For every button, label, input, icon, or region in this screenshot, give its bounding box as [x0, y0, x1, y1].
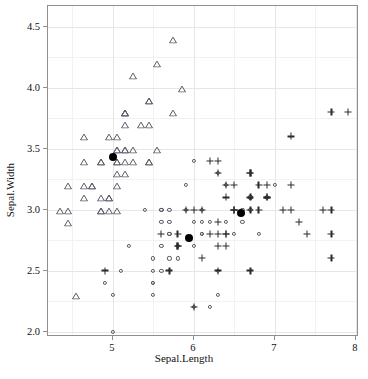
data-point-virginica	[287, 206, 294, 213]
data-point-versicolor	[167, 208, 171, 212]
data-point-setosa	[53, 207, 59, 212]
gridline-horizontal	[48, 332, 357, 333]
data-point-versicolor	[143, 208, 147, 212]
data-point-virginica	[223, 243, 230, 250]
data-point-setosa	[61, 207, 67, 212]
data-point-virginica	[255, 182, 262, 189]
data-point-setosa	[69, 292, 75, 297]
data-point-virginica	[320, 206, 327, 213]
gridline-vertical-minor	[234, 6, 235, 335]
data-point-virginica	[198, 206, 205, 213]
data-point-virginica	[247, 194, 254, 201]
data-point-setosa	[150, 61, 156, 66]
data-point-versicolor	[192, 220, 196, 224]
y-axis-tick	[43, 209, 47, 210]
data-point-virginica	[247, 206, 254, 213]
data-point-setosa	[61, 219, 67, 224]
data-point-virginica	[328, 206, 335, 213]
data-point-setosa	[110, 207, 116, 212]
centroid-marker	[237, 209, 245, 217]
data-point-versicolor	[192, 159, 196, 163]
data-point-versicolor	[111, 293, 115, 297]
data-point-virginica	[158, 230, 165, 237]
data-point-virginica	[287, 133, 294, 140]
data-point-virginica	[328, 230, 335, 237]
data-point-setosa	[126, 73, 132, 78]
data-point-virginica	[287, 182, 294, 189]
gridline-horizontal	[48, 271, 357, 272]
data-point-setosa	[77, 134, 83, 139]
data-point-virginica	[255, 206, 262, 213]
data-point-setosa	[102, 195, 108, 200]
data-point-virginica	[304, 230, 311, 237]
y-axis-tick	[43, 26, 47, 27]
data-point-versicolor	[216, 293, 220, 297]
data-point-versicolor	[119, 268, 123, 272]
data-point-versicolor	[184, 183, 188, 187]
data-point-setosa	[77, 183, 83, 188]
y-axis-tick	[43, 331, 47, 332]
data-point-virginica	[174, 230, 181, 237]
data-point-versicolor	[232, 232, 236, 236]
data-point-versicolor	[159, 268, 163, 272]
data-point-virginica	[328, 109, 335, 116]
data-point-virginica	[215, 157, 222, 164]
data-point-virginica	[182, 206, 189, 213]
gridline-vertical	[356, 6, 357, 335]
data-point-setosa	[110, 171, 116, 176]
data-point-setosa	[110, 183, 116, 188]
y-axis-tick-label: 3.0	[14, 203, 40, 214]
gridline-vertical-minor	[315, 6, 316, 335]
y-axis-tick-label: 3.5	[14, 142, 40, 153]
data-point-versicolor	[167, 256, 171, 260]
data-point-virginica	[296, 218, 303, 225]
gridline-horizontal	[48, 149, 357, 150]
data-point-setosa	[94, 158, 100, 163]
y-axis-tick-label: 2.5	[14, 264, 40, 275]
x-axis-tick	[193, 336, 194, 340]
data-point-virginica	[215, 243, 222, 250]
y-axis-tick	[43, 270, 47, 271]
data-point-virginica	[263, 182, 270, 189]
data-point-virginica	[206, 230, 213, 237]
gridline-horizontal-minor	[48, 301, 357, 302]
gridline-horizontal	[48, 27, 357, 28]
data-point-virginica	[215, 230, 222, 237]
data-point-virginica	[166, 267, 173, 274]
data-point-versicolor	[192, 244, 196, 248]
scatter-plot-figure: 56782.02.53.03.54.04.5 Sepal.Length Sepa…	[0, 0, 368, 379]
gridline-horizontal	[48, 88, 357, 89]
y-axis-tick	[43, 148, 47, 149]
data-point-setosa	[166, 110, 172, 115]
data-point-versicolor	[127, 244, 131, 248]
gridline-horizontal-minor	[48, 240, 357, 241]
data-point-versicolor	[175, 256, 179, 260]
data-point-virginica	[215, 267, 222, 274]
centroid-marker	[185, 234, 193, 242]
data-point-virginica	[247, 170, 254, 177]
data-point-virginica	[328, 255, 335, 262]
data-point-setosa	[61, 183, 67, 188]
data-point-versicolor	[159, 244, 163, 248]
data-point-virginica	[223, 230, 230, 237]
data-point-versicolor	[111, 329, 115, 333]
data-point-versicolor	[151, 293, 155, 297]
plot-panel	[47, 5, 358, 336]
data-point-setosa	[118, 122, 124, 127]
y-axis-label: Sepal.Width	[4, 150, 16, 230]
gridline-horizontal-minor	[48, 179, 357, 180]
data-point-virginica	[190, 304, 197, 311]
data-point-virginica	[101, 267, 108, 274]
data-point-virginica	[215, 170, 222, 177]
gridline-vertical	[275, 6, 276, 335]
data-point-versicolor	[167, 232, 171, 236]
data-point-virginica	[190, 206, 197, 213]
y-axis-tick-label: 4.5	[14, 20, 40, 31]
data-point-virginica	[174, 243, 181, 250]
x-axis-tick	[355, 336, 356, 340]
data-point-setosa	[175, 85, 181, 90]
data-point-virginica	[263, 194, 270, 201]
data-point-versicolor	[151, 281, 155, 285]
data-point-virginica	[247, 267, 254, 274]
data-point-versicolor	[103, 281, 107, 285]
